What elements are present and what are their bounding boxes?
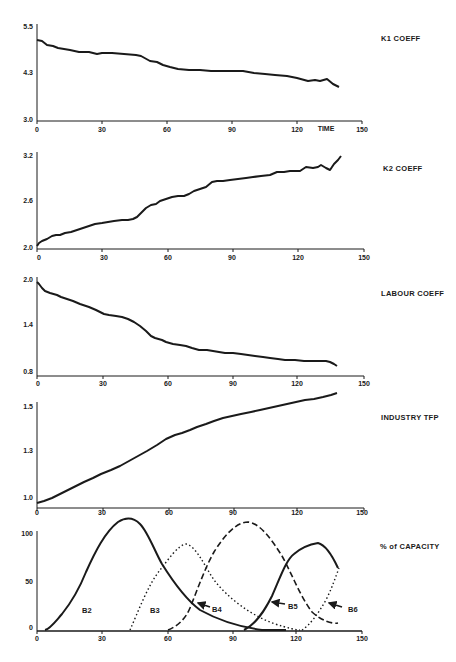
y-axis: 2.0 1.4 0.8 [23,276,37,376]
x-tick-label: 120 [291,509,303,516]
x-tick-label: 150 [356,635,368,642]
x-tick-label: 60 [163,126,171,133]
x-tick-label: 120 [291,380,303,387]
x-tick-label: 150 [356,509,368,516]
x-tick-label: 150 [358,254,370,261]
y-axis: 5.5 4.3 3.0 [23,23,37,123]
x-axis-title: TIME [318,125,335,132]
figure: 5.5 4.3 3.0 0 30 60 90 120 150 TIME K1 C… [0,0,456,662]
y-tick-label: 1.5 [23,403,33,410]
y-tick-label: 0 [29,624,33,631]
x-tick-label: 0 [35,509,39,516]
y-tick-label: 100 [21,530,33,537]
y-tick-label: 4.3 [23,69,33,76]
x-tick-label: 120 [290,635,302,642]
industry-tfp-line [37,393,337,503]
x-axis: 0 30 60 90 120 150 [35,508,368,516]
x-axis: 0 30 60 90 120 150 [37,249,370,261]
x-tick-label: 30 [99,380,107,387]
x-tick-label: 0 [36,380,40,387]
panel-title: K1 COEFF [381,34,421,43]
x-tick-label: 60 [165,509,173,516]
series-b6-line [302,568,339,630]
x-axis: 0 30 60 90 120 150 TIME [35,121,368,133]
panel-title: % of CAPACITY [380,542,440,551]
x-tick-label: 60 [164,635,172,642]
y-tick-label: 3.2 [23,152,33,159]
x-tick-label: 120 [292,254,304,261]
panel-percent-capacity: 100 50 0 0 30 60 90 120 150 [21,519,439,642]
panel-title: INDUSTRY TFP [381,413,439,422]
x-axis: 0 30 60 90 120 150 [36,376,370,387]
y-tick-label: 1.4 [23,321,33,328]
y-tick-label: 3.0 [23,116,33,123]
k2-coeff-line [37,156,341,246]
labour-coeff-line [37,282,337,366]
series-label-b4: B4 [212,605,222,614]
series-label-b5: B5 [288,602,298,611]
x-tick-label: 90 [228,126,236,133]
series-b5-line [244,543,338,630]
arrow-b4 [198,603,210,607]
y-tick-label: 50 [25,578,33,585]
x-tick-label: 60 [164,254,172,261]
x-axis: 0 30 60 90 120 150 [35,631,368,642]
panel-k2-coeff: 3.2 2.6 2.0 0 30 60 90 120 150 K2 COEFF [23,152,422,261]
panel-k1-coeff: 5.5 4.3 3.0 0 30 60 90 120 150 TIME K1 C… [23,23,420,133]
y-axis: 100 50 0 [21,530,37,631]
panel-title: LABOUR COEFF [381,289,444,298]
y-tick-label: 1.0 [23,494,33,501]
y-axis: 1.5 1.3 1.0 [23,402,37,508]
panel-labour-coeff: 2.0 1.4 0.8 0 30 60 90 120 150 LABOUR CO… [23,276,444,387]
x-tick-label: 60 [164,380,172,387]
k1-coeff-line [37,40,339,87]
series-label-b2: B2 [82,606,92,615]
x-tick-label: 150 [356,126,368,133]
x-tick-label: 30 [100,254,108,261]
x-tick-label: 120 [291,126,303,133]
x-tick-label: 30 [98,509,106,516]
arrow-b5 [272,602,285,604]
y-tick-label: 2.0 [23,244,33,251]
y-tick-label: 2.0 [23,276,33,283]
x-tick-label: 0 [37,254,41,261]
y-axis: 3.2 2.6 2.0 [23,152,37,251]
series-label-b3: B3 [150,606,160,615]
arrow-b6 [329,603,342,607]
x-tick-label: 30 [98,126,106,133]
x-tick-label: 90 [229,380,237,387]
panel-industry-tfp: 1.5 1.3 1.0 0 30 60 90 120 150 INDUSTRY … [23,393,439,516]
x-tick-label: 150 [358,380,370,387]
x-tick-label: 0 [35,126,39,133]
y-tick-label: 1.3 [23,447,33,454]
series-b4-line [168,522,338,630]
x-tick-label: 30 [98,635,106,642]
x-tick-label: 90 [228,254,236,261]
x-tick-label: 0 [35,635,39,642]
series-label-b6: B6 [348,605,358,614]
x-tick-label: 90 [229,635,237,642]
panel-title: K2 COEFF [383,164,423,173]
y-tick-label: 2.6 [23,197,33,204]
y-tick-label: 0.8 [23,368,33,375]
x-tick-label: 90 [229,509,237,516]
y-tick-label: 5.5 [23,23,33,30]
